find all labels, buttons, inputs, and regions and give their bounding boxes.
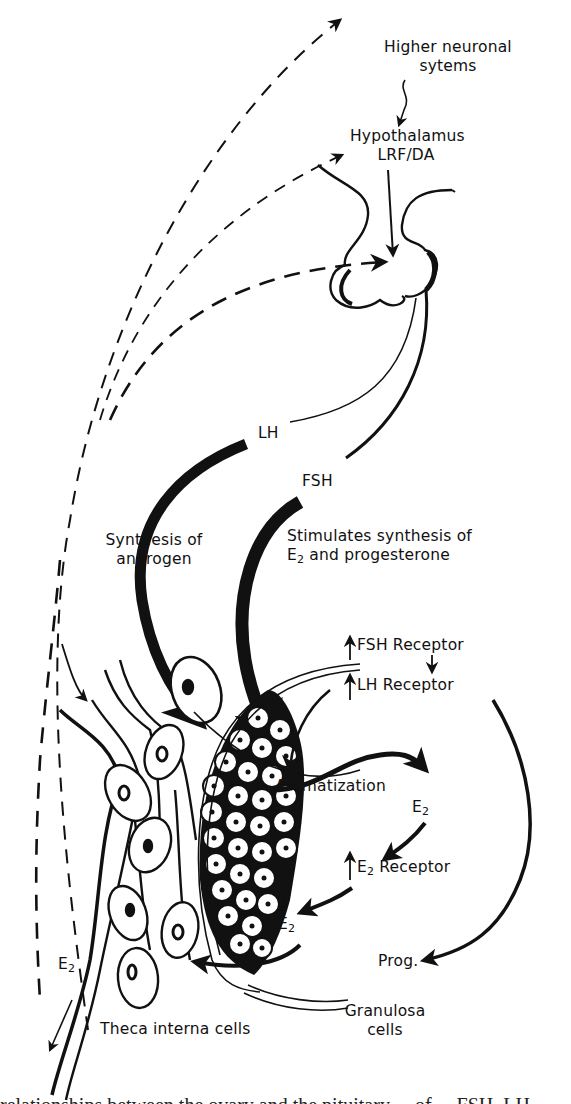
- hypothalamus-label: Hypothalamus LRF/DA: [350, 127, 462, 165]
- diagram-canvas: [0, 0, 571, 1104]
- e2-to-receptor-arrow: [386, 823, 425, 858]
- fsh-label: FSH: [302, 472, 333, 491]
- ovarian-feedback-diagram: Higher neuronal sytems Hypothalamus LRF/…: [0, 0, 571, 1104]
- higher-neuronal-line1: Higher neuronal: [348, 38, 548, 57]
- lh-receptor-to-prog-arrow: [425, 700, 530, 960]
- figure-caption-cutoff: relationships between the ovary and the …: [0, 1090, 571, 1104]
- aromatization-label: Aromatization: [275, 777, 386, 796]
- prog-label: Prog.: [378, 952, 418, 971]
- hypothalamus-line1: Hypothalamus: [350, 127, 462, 146]
- stimulates-synthesis-label: Stimulates synthesis of E2 and progester…: [287, 527, 472, 569]
- feedback-to-hypothalamus-arrow: [100, 155, 342, 420]
- e2-left-label: E2: [58, 955, 75, 978]
- granulosa-line1: Granulosa: [335, 1002, 435, 1021]
- synthesis-androgen-label: Synthesis of androgen: [98, 531, 210, 569]
- synthesis-androgen-line2: androgen: [98, 550, 210, 569]
- granulosa-line2: cells: [335, 1021, 435, 1040]
- lh-label: LH: [258, 424, 279, 443]
- stimulates-synthesis-line1: Stimulates synthesis of: [287, 527, 472, 546]
- e2-receptor-label: E2 Receptor: [357, 858, 450, 881]
- thin-arrow-to-theca: [62, 644, 86, 700]
- e2-mid-label: E2: [278, 915, 295, 938]
- receptor-to-e2-arrow: [302, 888, 352, 912]
- granulosa-label: Granulosa cells: [335, 1002, 435, 1040]
- neuronal-to-hypothalamus-arrow: [399, 80, 407, 125]
- feedback-to-pituitary-arrow: [110, 262, 385, 420]
- theca-interna-label: Theca interna cells: [100, 1020, 250, 1039]
- higher-neuronal-label: Higher neuronal sytems: [348, 38, 548, 76]
- e2-top-label: E2: [412, 798, 429, 821]
- synthesis-androgen-line1: Synthesis of: [98, 531, 210, 550]
- lh-receptor-label: LH Receptor: [357, 676, 454, 695]
- hypothalamus-to-pituitary-arrow: [388, 170, 393, 255]
- stimulates-synthesis-line2: E2 and progesterone: [287, 546, 472, 569]
- pituitary-gland: [318, 165, 455, 308]
- fsh-receptor-label: FSH Receptor: [357, 636, 464, 655]
- higher-neuronal-line2: sytems: [348, 57, 548, 76]
- hypothalamus-line2: LRF/DA: [350, 146, 462, 165]
